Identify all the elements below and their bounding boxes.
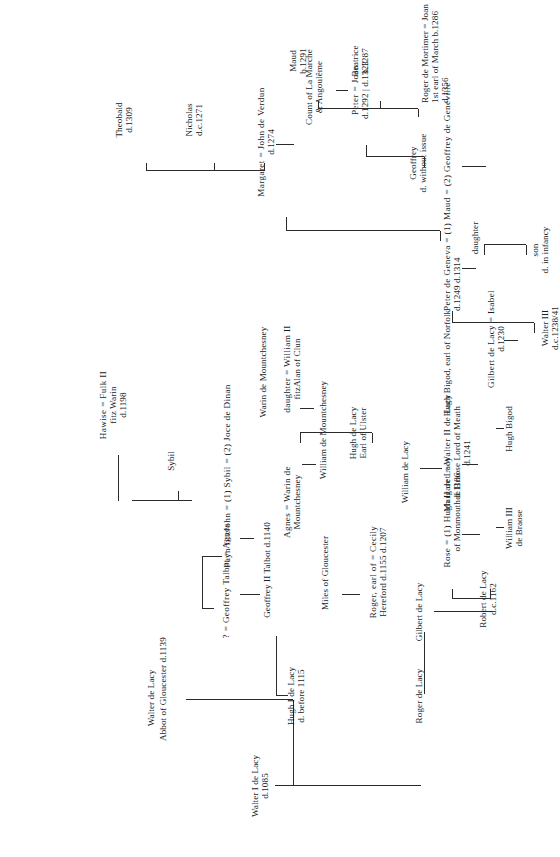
person-miles-of-gloucester: Miles of Gloucester xyxy=(320,513,330,633)
connector-v xyxy=(496,527,504,528)
connector-h xyxy=(526,245,527,255)
person-name-cont: fitz Warin xyxy=(108,357,118,453)
person-name: William III xyxy=(504,485,514,571)
connector-v xyxy=(496,428,504,429)
connector-h xyxy=(366,145,367,157)
person-name: Maud xyxy=(288,21,298,101)
person-name: Beatrice xyxy=(350,21,360,101)
connector-h xyxy=(214,163,215,171)
connector-h xyxy=(490,589,491,599)
connector-v xyxy=(504,340,518,341)
person-dates: d.c.1238/41 xyxy=(550,285,560,371)
person-roger-de-lacy: Roger de Lacy xyxy=(414,653,424,739)
connector-v xyxy=(202,608,214,609)
person-name: Hugh de Lacy xyxy=(348,385,358,481)
connector-h xyxy=(424,157,425,167)
person-hugh-de-lacy-earl-of-ulster: Hugh de Lacy Earl of Ulster xyxy=(348,385,368,481)
connector-v xyxy=(286,230,440,231)
person-dates: d. before 1115 xyxy=(296,653,306,739)
connector-v xyxy=(462,464,478,465)
marriage-label: Roger de Mortimer = Joan xyxy=(420,0,430,103)
person-walter-i-de-lacy: Walter I de Lacy d.1085 xyxy=(250,731,270,841)
person-gilbert-de-lacy-isabel: Gilbert de Lacy = Isabel d.1230 xyxy=(486,269,506,409)
person-name-cont: de Braose Lord of Meath xyxy=(452,367,462,539)
connector-v xyxy=(452,322,534,323)
connector-v xyxy=(300,432,372,433)
person-william-de-mountchesney: William de Mountchesney xyxy=(318,345,328,515)
person-walter-de-lacy-abbot: Walter de Lacy xyxy=(146,655,156,741)
person-beatrice: Beatrice b.1287 xyxy=(350,21,370,101)
connector-h xyxy=(300,433,301,443)
person-nicholas: Nicholas d.c.1271 xyxy=(184,77,204,163)
person-dates: d.c.1162 xyxy=(488,553,498,645)
connector-v xyxy=(484,244,526,245)
person-william-de-lacy: William de Lacy xyxy=(400,417,410,527)
person-note: d. in infancy xyxy=(540,215,550,285)
marriage-label: Margaret = John de Verdun xyxy=(256,67,266,217)
person-dates: d.1198 xyxy=(118,357,128,453)
person-name: daughter xyxy=(470,203,480,273)
person-agnes-warin-de-mountchesney: Agnes = Warin de Mountchesney xyxy=(282,447,302,557)
connector-h xyxy=(178,491,179,501)
person-name: Theobald xyxy=(114,77,124,163)
connector-v xyxy=(318,108,418,109)
connector-h xyxy=(118,455,119,501)
person-hawise-fulk-ii-fitz-warin: Hawise = Fulk II fitz Warin d.1198 xyxy=(98,357,129,453)
person-dates: d.1356 xyxy=(440,0,450,103)
person-roger-earl-hereford-cecily: Roger, earl of = Cecily Hereford d.1155 … xyxy=(368,497,388,647)
person-dates: Abbot of Gloucester d.1139 xyxy=(158,561,168,741)
marriage-label: daughter = William II xyxy=(282,307,292,431)
person-name: Geoffrey II Talbot d.1140 xyxy=(262,505,272,635)
person-william-iii-de-braose: William III de Braose xyxy=(504,485,524,571)
person-title: Earl of Ulster xyxy=(358,385,368,481)
person-hugh-i-de-lacy: Hugh I de Lacy d. before 1115 xyxy=(286,653,306,739)
person-sybil: Sybil xyxy=(166,431,176,491)
person-dates: d.c.1271 xyxy=(194,77,204,163)
connector-h xyxy=(264,163,265,171)
connector-h xyxy=(452,311,453,323)
connector-h xyxy=(318,101,319,109)
connector-h xyxy=(452,589,453,599)
connector-v xyxy=(366,156,424,157)
person-theobald: Theobald d.1309 xyxy=(114,77,134,163)
connector-v xyxy=(186,699,293,700)
person-name-cont: fitzAlan of Clun xyxy=(292,307,302,431)
person-title-cont: & Angoulême xyxy=(314,17,324,157)
connector-h xyxy=(380,101,381,109)
person-title-dates: 1st earl of March b.1286 xyxy=(430,0,440,103)
connector-v xyxy=(462,166,486,167)
person-name: Robert de Lacy xyxy=(478,553,488,645)
person-gilbert-de-lacy: Gilbert de Lacy xyxy=(414,565,424,659)
person-name: Sybil xyxy=(166,431,176,491)
connector-v xyxy=(302,464,316,465)
person-dates: d.1230 xyxy=(496,269,506,409)
connector-h xyxy=(276,636,277,696)
connector-h xyxy=(286,217,287,231)
connector-v xyxy=(240,538,254,539)
person-dates: d.1085 xyxy=(260,731,270,841)
person-name: son xyxy=(530,215,540,285)
connector-v xyxy=(275,785,293,786)
connector-v xyxy=(342,594,360,595)
connector-v xyxy=(146,170,264,171)
person-geoffrey-died-without-issue: Geoffrey d. without issue xyxy=(408,115,428,211)
person-name: Hugh I de Lacy xyxy=(286,653,296,739)
person-dates: d.1309 xyxy=(124,77,134,163)
person-name: William de Lacy xyxy=(400,417,410,527)
person-name: Nicholas xyxy=(184,77,194,163)
person-geoffrey-ii-talbot: Geoffrey II Talbot d.1140 xyxy=(262,505,272,635)
person-dates: d.1274 xyxy=(266,67,276,217)
person-margaret-john-de-verdun: Margaret = John de Verdun d.1274 xyxy=(256,67,276,217)
connector-v xyxy=(336,90,348,91)
marriage-label: Agnes = Warin de xyxy=(282,447,292,557)
person-name-cont: de Braose xyxy=(514,485,524,571)
person-name: Gilbert de Lacy xyxy=(414,565,424,659)
person-warin-de-mountchesney: Warin de Mountchesney xyxy=(258,287,268,457)
marriage-label: Hawise = Fulk II xyxy=(98,357,108,453)
person-robert-de-lacy: Robert de Lacy d.c.1162 xyxy=(478,553,498,645)
connector-h xyxy=(146,163,147,171)
person-maud: Maud b.1291 xyxy=(288,21,308,101)
person-name: Walter de Lacy xyxy=(146,655,156,741)
marriage-label: Payn fitzJohn = (1) Sybil = (2) Joce de … xyxy=(222,381,232,571)
